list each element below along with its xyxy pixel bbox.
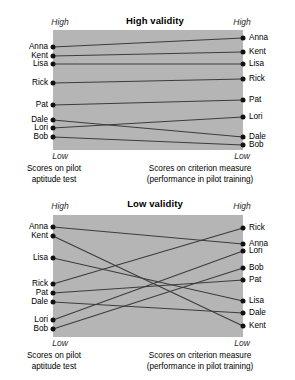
left-dots-low-validity [51, 225, 56, 332]
line-dale-bottom [53, 302, 243, 313]
dot-left-lisa-top [51, 62, 56, 67]
line-lori-bottom [53, 251, 243, 320]
label-right-3-top: Lisa [249, 60, 264, 68]
dot-left-lisa-bottom [51, 256, 56, 261]
caption-right-line2-top: (performance in pilot training) [112, 175, 288, 186]
label-right-5-bottom: Pat [249, 276, 261, 284]
line-pat-top [53, 100, 243, 105]
panel-high-validity: High validity High High Low Low [0, 0, 295, 190]
label-left-8-top: Bob [8, 133, 48, 141]
dot-left-anna-top [51, 45, 56, 50]
dot-left-bob-top [51, 135, 56, 140]
line-bob-top [53, 137, 243, 145]
dot-left-lori-bottom [51, 318, 56, 323]
label-left-1-bottom: Anna [8, 223, 48, 231]
dot-right-kent-bottom [241, 324, 246, 329]
dot-left-dale-bottom [51, 300, 56, 305]
caption-left-line1-bottom: Scores on pilot [6, 351, 102, 362]
dot-right-bob-bottom [241, 266, 246, 271]
line-anna-top [53, 38, 243, 47]
label-right-5-top: Pat [249, 96, 261, 104]
right-dots-low-validity [241, 226, 246, 329]
dot-left-bob-bottom [51, 327, 56, 332]
caption-left-line1-top: Scores on pilot [6, 164, 102, 175]
dot-right-pat-bottom [241, 278, 246, 283]
dot-right-lori-top [241, 115, 246, 120]
label-right-3-bottom: Lori [249, 247, 263, 255]
dot-left-kent-bottom [51, 234, 56, 239]
label-right-4-bottom: Bob [249, 264, 264, 272]
dot-right-anna-top [241, 36, 246, 41]
dot-left-kent-top [51, 54, 56, 59]
right-dots-high-validity [241, 36, 246, 148]
label-left-6-bottom: Dale [8, 298, 48, 306]
caption-right-line1-top: Scores on criterion measure [112, 164, 288, 175]
caption-right-low-validity: Scores on criterion measure (performance… [112, 351, 288, 372]
label-right-1-bottom: Rick [249, 224, 265, 232]
dot-left-lori-top [51, 126, 56, 131]
line-rick-top [53, 79, 243, 83]
line-anna-bottom [53, 227, 243, 244]
dot-left-rick-bottom [51, 282, 56, 287]
dot-right-lisa-bottom [241, 299, 246, 304]
dot-right-anna-bottom [241, 242, 246, 247]
line-kent-top [53, 52, 243, 56]
dot-right-pat-top [241, 98, 246, 103]
label-left-4-top: Rick [8, 79, 48, 87]
caption-left-line2-top: aptitude test [6, 175, 102, 186]
label-left-3-bottom: Lisa [8, 254, 48, 262]
dot-left-anna-bottom [51, 225, 56, 230]
caption-right-line2-bottom: (performance in pilot training) [112, 362, 288, 373]
label-left-3-top: Lisa [8, 60, 48, 68]
dot-right-dale-top [241, 135, 246, 140]
dot-right-rick-top [241, 77, 246, 82]
line-lisa-bottom [53, 258, 243, 301]
line-bob-bottom [53, 268, 243, 329]
dot-right-lisa-top [241, 62, 246, 67]
caption-left-line2-bottom: aptitude test [6, 362, 102, 373]
slope-chart-figure: High validity High High Low Low [0, 0, 295, 380]
caption-left-high-validity: Scores on pilot aptitude test [6, 164, 102, 185]
label-left-7-bottom: Lori [8, 316, 48, 324]
dot-right-lori-bottom [241, 249, 246, 254]
dot-right-rick-bottom [241, 226, 246, 231]
label-right-8-top: Bob [249, 141, 264, 149]
label-right-1-top: Anna [249, 34, 268, 42]
label-right-2-top: Kent [249, 48, 266, 56]
dot-right-kent-top [241, 50, 246, 55]
label-left-4-bottom: Rick [8, 280, 48, 288]
dot-left-pat-top [51, 103, 56, 108]
label-left-1-top: Anna [8, 43, 48, 51]
label-right-6-top: Lori [249, 113, 263, 121]
dot-right-dale-bottom [241, 311, 246, 316]
label-right-7-bottom: Dale [249, 309, 266, 317]
label-left-5-top: Pat [8, 101, 48, 109]
dot-left-rick-top [51, 81, 56, 86]
dot-left-pat-bottom [51, 291, 56, 296]
dot-left-dale-top [51, 118, 56, 123]
label-left-7-top: Lori [8, 124, 48, 132]
label-right-4-top: Rick [249, 75, 265, 83]
label-right-8-bottom: Kent [249, 322, 266, 330]
label-left-8-bottom: Bob [8, 325, 48, 333]
label-left-2-bottom: Kent [8, 232, 48, 240]
label-left-5-bottom: Pat [8, 289, 48, 297]
line-rick-bottom [53, 228, 243, 284]
line-pat-bottom [53, 280, 243, 293]
panel-low-validity: Low validity High High Low Low [0, 190, 295, 380]
line-kent-bottom [53, 236, 243, 326]
caption-right-high-validity: Scores on criterion measure (performance… [112, 164, 288, 185]
caption-right-line1-bottom: Scores on criterion measure [112, 351, 288, 362]
dot-right-bob-top [241, 143, 246, 148]
label-right-6-bottom: Lisa [249, 297, 264, 305]
left-dots-high-validity [51, 45, 56, 140]
caption-left-low-validity: Scores on pilot aptitude test [6, 351, 102, 372]
